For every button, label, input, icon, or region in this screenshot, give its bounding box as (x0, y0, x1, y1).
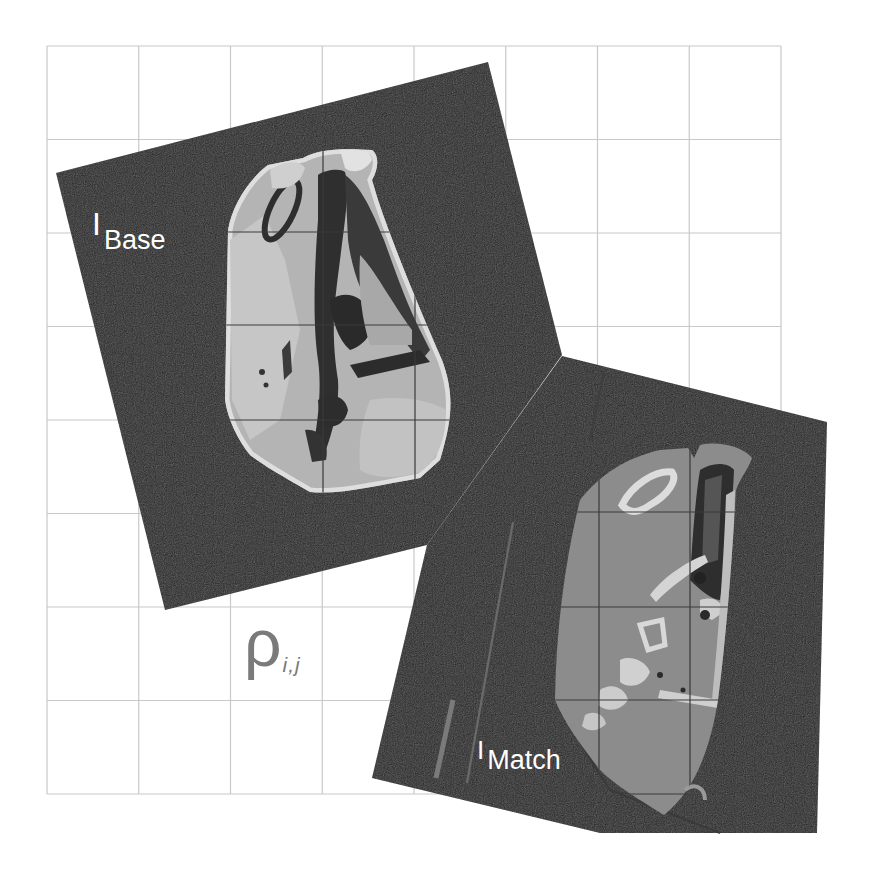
correlation-label: ρi,j (244, 610, 301, 676)
figure-canvas (0, 0, 869, 873)
rho-subscript: i,j (283, 653, 301, 676)
rho-symbol: ρ (244, 606, 282, 680)
match-label-main: I (477, 735, 484, 765)
base-image-label: IBase (92, 208, 165, 240)
registration-figure: IBase IMatch ρi,j (0, 0, 869, 873)
match-label-subscript: Match (487, 745, 561, 775)
match-image-label: IMatch (477, 737, 561, 764)
base-label-main: I (92, 206, 101, 242)
base-label-subscript: Base (104, 225, 166, 255)
